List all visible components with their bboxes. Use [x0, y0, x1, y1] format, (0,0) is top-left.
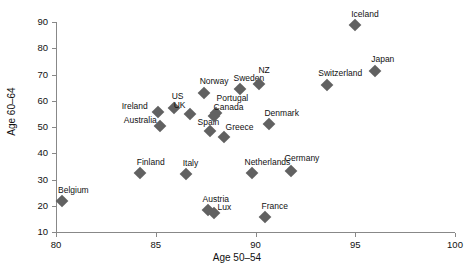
y-axis-title: Age 60–64 [6, 57, 17, 167]
scatter-chart: 102030405060708090 80859095100 BelgiumFi… [0, 0, 474, 275]
data-point-marker [179, 168, 192, 181]
y-tick-mark [52, 180, 56, 181]
data-point-label: NZ [258, 66, 269, 75]
y-tick-label: 80 [18, 42, 48, 53]
x-tick-mark [256, 233, 257, 237]
y-tick-label: 40 [18, 147, 48, 158]
data-point-label: Canada [214, 103, 244, 112]
x-tick-label: 90 [236, 239, 276, 250]
data-point-marker [217, 130, 230, 143]
data-point-label: Iceland [351, 10, 378, 19]
data-point-marker [259, 211, 272, 224]
data-point-marker [369, 64, 382, 77]
y-tick-mark [52, 75, 56, 76]
x-tick-mark [355, 233, 356, 237]
y-tick-mark [52, 22, 56, 23]
y-tick-mark [52, 101, 56, 102]
x-tick-mark [455, 233, 456, 237]
x-tick-label: 100 [435, 239, 474, 250]
data-point-label: France [261, 202, 287, 211]
data-point-label: Greece [226, 123, 254, 132]
x-tick-label: 95 [335, 239, 375, 250]
y-tick-label: 30 [18, 174, 48, 185]
data-point-label: Switzerland [318, 69, 362, 78]
y-tick-label: 50 [18, 121, 48, 132]
y-tick-label: 70 [18, 69, 48, 80]
data-point-marker [133, 167, 146, 180]
data-point-marker [321, 79, 334, 92]
x-tick-mark [156, 233, 157, 237]
data-point-label: Japan [371, 55, 394, 64]
x-tick-label: 80 [36, 239, 76, 250]
data-point-label: Lux [218, 203, 232, 212]
data-point-label: Italy [183, 159, 199, 168]
data-point-marker [245, 167, 258, 180]
y-tick-mark [52, 48, 56, 49]
data-point-label: Australia [124, 116, 157, 125]
data-point-label: Denmark [264, 109, 298, 118]
data-point-label: Belgium [58, 186, 89, 195]
data-point-label: Finland [137, 158, 165, 167]
x-tick-mark [56, 233, 57, 237]
y-tick-mark [52, 206, 56, 207]
y-tick-mark [52, 153, 56, 154]
data-point-marker [183, 107, 196, 120]
x-tick-label: 85 [136, 239, 176, 250]
data-point-marker [56, 195, 69, 208]
data-point-marker [197, 86, 210, 99]
data-point-label: Ireland [122, 102, 148, 111]
data-point-label: US [172, 92, 184, 101]
data-point-marker [263, 117, 276, 130]
data-point-label: Norway [200, 77, 229, 86]
y-tick-mark [52, 127, 56, 128]
data-point-label: UK [174, 101, 186, 110]
y-tick-label: 90 [18, 16, 48, 27]
y-tick-label: 20 [18, 200, 48, 211]
y-tick-label: 10 [18, 226, 48, 237]
x-axis-title: Age 50–54 [0, 252, 474, 263]
data-point-label: Germany [284, 154, 319, 163]
y-tick-label: 60 [18, 95, 48, 106]
data-point-marker [349, 18, 362, 31]
